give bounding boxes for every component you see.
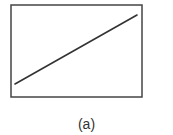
data-line [15,15,137,84]
plot-frame [11,5,142,97]
line-plot [0,0,173,135]
figure-caption: (a) [0,116,173,132]
